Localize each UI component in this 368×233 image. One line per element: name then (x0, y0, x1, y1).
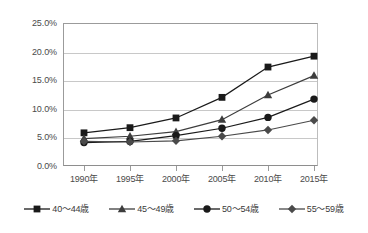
legend-item[interactable]: 55〜59歳 (279, 203, 344, 215)
legend: 40〜44歳 45〜49歳 50〜54歳 55〜59歳 (0, 203, 368, 215)
square-marker-icon (24, 203, 50, 215)
gridline (64, 110, 317, 111)
legend-item[interactable]: 40〜44歳 (24, 203, 89, 215)
y-tick-label: 25.0% (9, 19, 57, 28)
line-chart: 25.0% 20.0% 15.0% 10.0% 5.0% 0.0% 1990年 … (0, 0, 368, 233)
y-tick-label: 0.0% (9, 162, 57, 171)
legend-label: 45〜49歳 (137, 204, 174, 214)
gridline (64, 81, 317, 82)
legend-label: 50〜54歳 (222, 204, 259, 214)
legend-item[interactable]: 45〜49歳 (109, 203, 174, 215)
legend-item[interactable]: 50〜54歳 (194, 203, 259, 215)
x-tick-label: 2015年 (286, 174, 342, 184)
x-tick (314, 166, 315, 171)
y-tick-label: 20.0% (9, 48, 57, 57)
y-tick-label: 15.0% (9, 76, 57, 85)
legend-label: 55〜59歳 (307, 204, 344, 214)
diamond-marker-icon (279, 203, 305, 215)
circle-marker-icon (194, 203, 220, 215)
y-tick-label: 10.0% (9, 105, 57, 114)
x-tick (176, 166, 177, 171)
x-tick (268, 166, 269, 171)
gridline (64, 138, 317, 139)
x-tick (84, 166, 85, 171)
legend-label: 40〜44歳 (52, 204, 89, 214)
x-tick (222, 166, 223, 171)
x-tick (130, 166, 131, 171)
triangle-marker-icon (109, 203, 135, 215)
y-tick-label: 5.0% (9, 133, 57, 142)
plot-area (63, 23, 318, 166)
gridline (64, 53, 317, 54)
